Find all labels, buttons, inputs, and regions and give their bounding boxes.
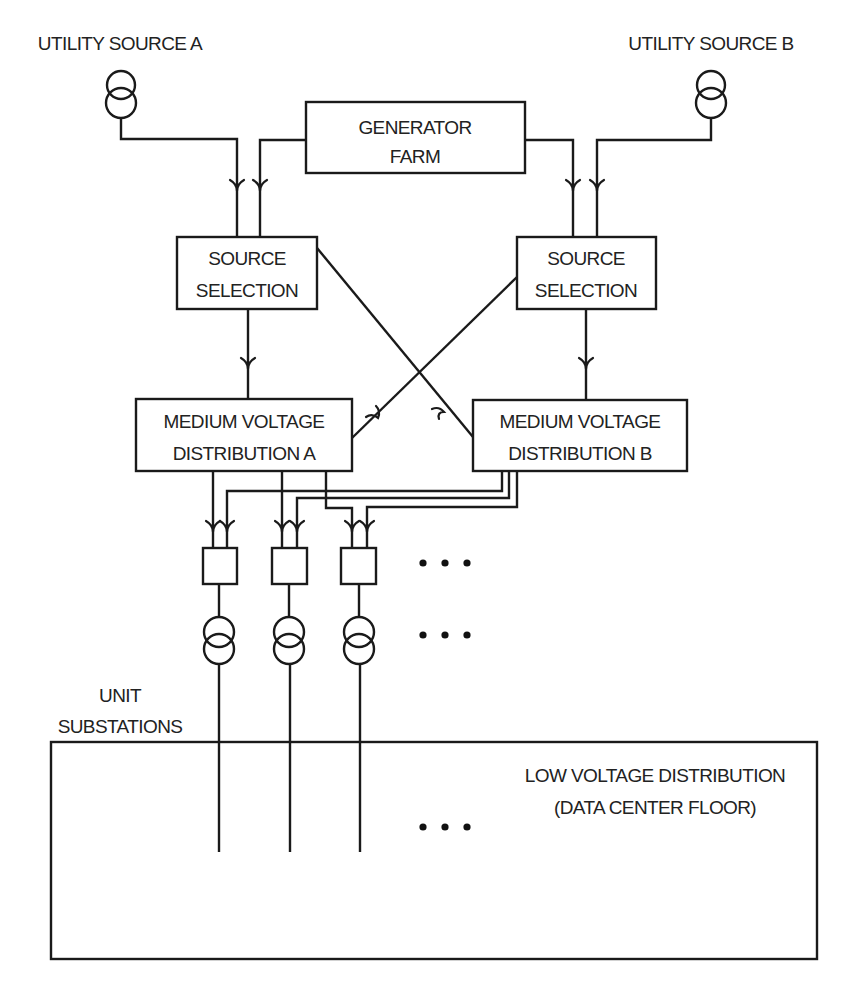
- unit-substations-label-2: SUBSTATIONS: [58, 716, 183, 737]
- arrowhead-diagonal-icon: [432, 408, 444, 419]
- generator-farm-label-1: GENERATOR: [358, 117, 471, 138]
- ellipsis-dots-icon: [419, 559, 470, 566]
- utility-b-transformer-icon: [696, 71, 726, 118]
- generator-to-source-a-line: [260, 140, 306, 237]
- source-selection-b-label-1: SOURCE: [547, 248, 625, 269]
- mv-distribution-a-label-2: DISTRIBUTION A: [173, 443, 316, 464]
- mv-a-feeder-3: [326, 471, 352, 548]
- low-voltage-label-1: LOW VOLTAGE DISTRIBUTION: [525, 765, 785, 786]
- low-voltage-label-2: (DATA CENTER FLOOR): [554, 797, 756, 818]
- mv-b-feeder-3: [367, 471, 517, 548]
- utility-a-feed-line: [121, 118, 237, 237]
- utility-a-transformer-icon: [106, 71, 136, 118]
- source-selection-a-label-1: SOURCE: [208, 248, 286, 269]
- ellipsis-dots-icon: [419, 631, 470, 638]
- utility-source-a-label: UTILITY SOURCE A: [38, 33, 203, 54]
- mv-distribution-b-label-2: DISTRIBUTION B: [508, 443, 652, 464]
- mv-distribution-a-label-1: MEDIUM VOLTAGE: [164, 411, 325, 432]
- source-selection-a-label-2: SELECTION: [196, 280, 298, 301]
- unit-transformer-2-icon: [274, 617, 304, 664]
- mv-b-feeder-1: [227, 471, 502, 548]
- generator-to-source-b-line: [525, 140, 573, 237]
- mv-distribution-b-label-1: MEDIUM VOLTAGE: [500, 411, 661, 432]
- utility-b-feed-line: [597, 118, 711, 237]
- generator-farm-label-2: FARM: [390, 146, 440, 167]
- mv-b-feeder-2: [297, 471, 509, 548]
- unit-transformer-1-icon: [204, 617, 234, 664]
- utility-source-b-label: UTILITY SOURCE B: [628, 33, 793, 54]
- breaker-box-2: [272, 548, 307, 584]
- breaker-box-1: [203, 548, 237, 584]
- breaker-box-3: [341, 548, 376, 584]
- power-distribution-diagram: UTILITY SOURCE A UTILITY SOURCE B GENERA…: [0, 0, 854, 1000]
- source-selection-b-label-2: SELECTION: [535, 280, 637, 301]
- unit-substations-label-1: UNIT: [99, 685, 142, 706]
- unit-transformer-3-icon: [344, 617, 374, 664]
